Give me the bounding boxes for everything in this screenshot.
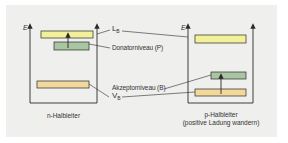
p-semiconductor-box: [188, 26, 253, 103]
p-axis-label: E: [181, 24, 186, 31]
n-semiconductor-caption: n-Halbleiter: [30, 112, 97, 120]
valence-band-label-sub: B: [117, 95, 120, 101]
conduction-band-label: LB: [112, 25, 120, 34]
p-valence-band: [195, 89, 246, 96]
donor-level-bar: [54, 42, 89, 50]
n-semiconductor-box: [30, 26, 97, 103]
acceptor-level-bar: [211, 72, 246, 79]
n-axis-label: E: [23, 24, 28, 31]
n-valence-band: [37, 81, 89, 88]
p-conduction-band: [195, 35, 246, 43]
p-caption-line2: (positive Ladung wandern): [180, 119, 262, 127]
acceptor-level-label: Akzeptorniveau (B): [112, 85, 165, 92]
n-conduction-band: [41, 31, 93, 38]
conduction-band-label-sub: B: [116, 28, 119, 34]
valence-band-label: VB: [112, 92, 121, 101]
p-caption-line1: p-Halbleiter: [180, 111, 262, 119]
n-caption-line1: n-Halbleiter: [30, 112, 97, 120]
donor-level-label: Donatorniveau (P): [112, 45, 163, 52]
p-semiconductor-caption: p-Halbleiter (positive Ladung wandern): [180, 111, 262, 127]
